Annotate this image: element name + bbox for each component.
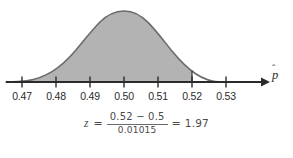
- axis-tick-label-2: 0.49: [80, 91, 100, 102]
- formula-result: 1.97: [185, 117, 209, 129]
- axis-tick-label-3: 0.50: [114, 91, 134, 102]
- axis-tick-label-0: 0.47: [12, 91, 32, 102]
- axis-tick-label-1: 0.48: [46, 91, 66, 102]
- formula-fraction: 0.52 − 0.5 0.01015: [107, 112, 168, 135]
- z-score-formula: z = 0.52 − 0.5 0.01015 = 1.97: [0, 112, 293, 135]
- axis-tick-label-4: 0.51: [148, 91, 168, 102]
- shaded-area-under-curve: [6, 11, 220, 82]
- formula-equals-sign: =: [93, 117, 102, 130]
- normal-curve-figure: 0.47 0.48 0.49 0.50 0.51 0.52 0.53 ˆp z …: [0, 0, 293, 158]
- p-hat-caret-icon: ˆ: [272, 64, 275, 74]
- formula-numerator: 0.52 − 0.5: [107, 112, 168, 124]
- axis-tick-label-5: 0.52: [182, 91, 202, 102]
- axis-arrow-icon: [261, 78, 270, 87]
- formula-denominator: 0.01015: [115, 125, 160, 135]
- formula-variable-z: z: [84, 117, 89, 129]
- axis-variable-label-p-hat: ˆp: [272, 69, 278, 82]
- axis-tick-label-6: 0.53: [216, 91, 236, 102]
- formula-equals-sign-2: =: [172, 117, 181, 130]
